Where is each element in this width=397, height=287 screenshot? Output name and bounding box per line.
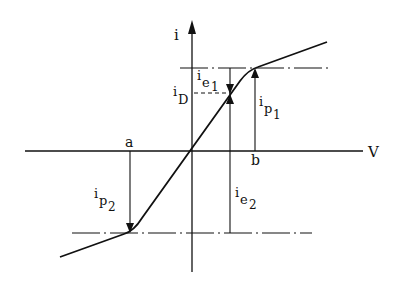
v-axis-label: V: [367, 143, 380, 161]
svg-text:1: 1: [273, 108, 281, 122]
svg-text:i: i: [94, 186, 98, 201]
svg-text:i: i: [259, 94, 263, 109]
svg-text:i: i: [235, 185, 239, 200]
svg-text:i: i: [197, 68, 201, 83]
svg-text:1: 1: [211, 80, 219, 94]
i-axis-label: i: [174, 26, 179, 44]
svg-text:e: e: [240, 192, 248, 207]
iv-characteristic-diagram: i V a b i e 1 i D i p 1 i p 2 i e 2: [0, 0, 397, 287]
axis-arrow-icon: [188, 20, 196, 34]
ip1-label: i p 1: [259, 94, 281, 122]
point-a-label: a: [125, 134, 133, 150]
ie1-label: i e 1: [197, 68, 219, 94]
i-axis: [188, 20, 196, 272]
id-label: i D: [173, 84, 188, 107]
ie2-label: i e 2: [235, 185, 257, 212]
svg-text:2: 2: [249, 198, 257, 212]
point-b-label: b: [251, 152, 260, 168]
svg-text:p: p: [264, 101, 272, 116]
svg-text:e: e: [202, 75, 210, 90]
svg-text:D: D: [178, 92, 188, 107]
svg-text:2: 2: [108, 200, 116, 214]
svg-text:i: i: [173, 84, 177, 99]
characteristic-curve: [60, 42, 327, 257]
ip2-label: i p 2: [94, 186, 116, 214]
svg-text:p: p: [99, 193, 107, 208]
